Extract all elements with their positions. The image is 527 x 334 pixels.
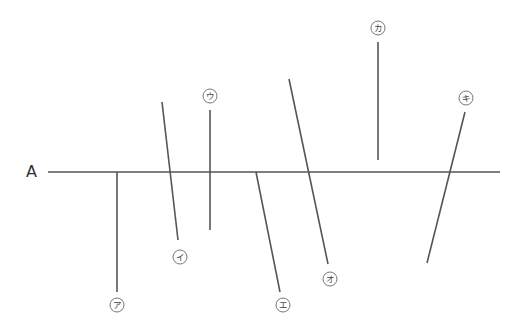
- line-ki: [427, 112, 465, 263]
- label-u: ウ: [203, 89, 218, 104]
- label-o: オ: [323, 272, 338, 287]
- label-ka: カ: [371, 21, 386, 36]
- line-diagram-canvas: [0, 0, 527, 334]
- label-i: イ: [173, 250, 188, 265]
- label-ki: キ: [459, 91, 474, 106]
- line-i: [162, 102, 178, 240]
- line-A-label: A: [26, 162, 37, 182]
- label-a: ア: [110, 298, 125, 313]
- line-e: [256, 172, 280, 292]
- geometry-diagram: A ア イ ウ エ オ カ キ: [0, 0, 527, 334]
- line-segments: [117, 42, 465, 292]
- label-e: エ: [276, 298, 291, 313]
